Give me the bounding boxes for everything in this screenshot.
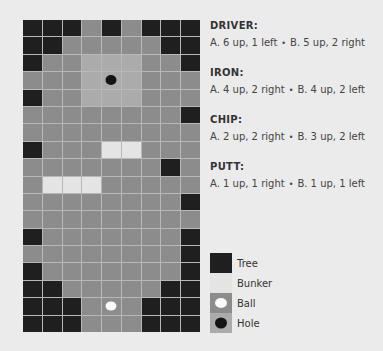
fairway-cell[interactable] [122, 229, 141, 245]
fairway-cell[interactable] [43, 90, 62, 106]
fairway-cell[interactable] [181, 159, 200, 175]
fairway-cell[interactable] [43, 263, 62, 279]
chip-option-a[interactable]: A. 2 up, 2 right [210, 131, 285, 142]
tree-cell[interactable] [181, 55, 200, 71]
tree-cell[interactable] [23, 90, 42, 106]
tree-cell[interactable] [142, 298, 161, 314]
putt-option-b[interactable]: B. 1 up, 1 left [297, 178, 365, 189]
fairway-cell[interactable] [142, 37, 161, 53]
fairway-cell[interactable] [181, 142, 200, 158]
tree-cell[interactable] [43, 37, 62, 53]
fairway-cell[interactable] [122, 211, 141, 227]
tree-cell[interactable] [43, 281, 62, 297]
fairway-cell[interactable] [63, 90, 82, 106]
tree-cell[interactable] [23, 229, 42, 245]
fairway-cell[interactable] [102, 246, 121, 262]
fairway-cell[interactable] [82, 159, 101, 175]
fairway-cell[interactable] [122, 107, 141, 123]
fairway-cell[interactable] [63, 37, 82, 53]
fairway-cell[interactable] [82, 142, 101, 158]
fairway-cell[interactable] [23, 72, 42, 88]
fairway-cell[interactable] [23, 177, 42, 193]
fairway-cell[interactable] [23, 211, 42, 227]
fairway-cell[interactable] [102, 159, 121, 175]
fairway-cell[interactable] [122, 159, 141, 175]
fairway-cell[interactable] [142, 55, 161, 71]
tree-cell[interactable] [161, 20, 180, 36]
tree-cell[interactable] [181, 298, 200, 314]
tree-cell[interactable] [63, 20, 82, 36]
tree-cell[interactable] [23, 316, 42, 332]
fairway-cell[interactable] [142, 159, 161, 175]
fairway-cell[interactable] [63, 246, 82, 262]
fairway-cell[interactable] [43, 159, 62, 175]
fairway-cell[interactable] [122, 20, 141, 36]
fairway-cell[interactable] [43, 229, 62, 245]
fairway-cell[interactable] [102, 124, 121, 140]
fairway-cell[interactable] [43, 211, 62, 227]
fairway-cell[interactable] [82, 246, 101, 262]
fairway-cell[interactable] [142, 177, 161, 193]
fairway-cell[interactable] [181, 90, 200, 106]
tree-cell[interactable] [142, 316, 161, 332]
fairway-cell[interactable] [63, 107, 82, 123]
bunker-cell[interactable] [43, 177, 62, 193]
fairway-cell[interactable] [142, 142, 161, 158]
green-cell[interactable] [82, 90, 101, 106]
fairway-cell[interactable] [181, 211, 200, 227]
tree-cell[interactable] [43, 316, 62, 332]
fairway-cell[interactable] [181, 72, 200, 88]
fairway-cell[interactable] [63, 72, 82, 88]
tree-cell[interactable] [181, 316, 200, 332]
green-cell[interactable] [82, 72, 101, 88]
fairway-cell[interactable] [102, 298, 121, 314]
fairway-cell[interactable] [82, 316, 101, 332]
fairway-cell[interactable] [161, 177, 180, 193]
fairway-cell[interactable] [82, 298, 101, 314]
tree-cell[interactable] [181, 229, 200, 245]
tree-cell[interactable] [23, 20, 42, 36]
fairway-cell[interactable] [161, 211, 180, 227]
fairway-cell[interactable] [122, 263, 141, 279]
bunker-cell[interactable] [102, 142, 121, 158]
green-cell[interactable] [102, 72, 121, 88]
fairway-cell[interactable] [142, 281, 161, 297]
tree-cell[interactable] [181, 263, 200, 279]
fairway-cell[interactable] [63, 211, 82, 227]
fairway-cell[interactable] [82, 124, 101, 140]
fairway-cell[interactable] [122, 177, 141, 193]
chip-option-b[interactable]: B. 3 up, 2 left [297, 131, 365, 142]
tree-cell[interactable] [181, 246, 200, 262]
fairway-cell[interactable] [142, 90, 161, 106]
fairway-cell[interactable] [82, 281, 101, 297]
tree-cell[interactable] [142, 20, 161, 36]
tree-cell[interactable] [181, 194, 200, 210]
putt-option-a[interactable]: A. 1 up, 1 right [210, 178, 285, 189]
fairway-cell[interactable] [23, 159, 42, 175]
fairway-cell[interactable] [161, 194, 180, 210]
fairway-cell[interactable] [82, 20, 101, 36]
fairway-cell[interactable] [43, 142, 62, 158]
fairway-cell[interactable] [102, 263, 121, 279]
fairway-cell[interactable] [122, 281, 141, 297]
fairway-cell[interactable] [63, 229, 82, 245]
tree-cell[interactable] [23, 142, 42, 158]
fairway-cell[interactable] [43, 246, 62, 262]
fairway-cell[interactable] [82, 211, 101, 227]
fairway-cell[interactable] [142, 124, 161, 140]
fairway-cell[interactable] [102, 107, 121, 123]
fairway-cell[interactable] [82, 194, 101, 210]
tree-cell[interactable] [23, 55, 42, 71]
fairway-cell[interactable] [63, 55, 82, 71]
fairway-cell[interactable] [142, 229, 161, 245]
fairway-cell[interactable] [43, 107, 62, 123]
fairway-cell[interactable] [82, 263, 101, 279]
fairway-cell[interactable] [122, 316, 141, 332]
tree-cell[interactable] [181, 37, 200, 53]
fairway-cell[interactable] [142, 211, 161, 227]
tree-cell[interactable] [23, 263, 42, 279]
fairway-cell[interactable] [142, 246, 161, 262]
green-cell[interactable] [122, 72, 141, 88]
fairway-cell[interactable] [161, 72, 180, 88]
tree-cell[interactable] [181, 281, 200, 297]
